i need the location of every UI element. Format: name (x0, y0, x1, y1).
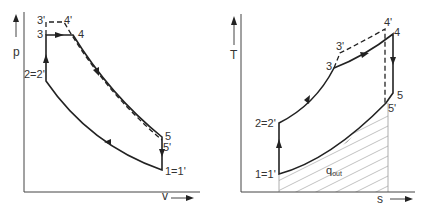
v-axis-arrow-icon (171, 195, 194, 201)
t-axis-arrow-icon (231, 16, 237, 45)
pv-label-3: 3 (37, 28, 43, 40)
ts-y-axis-label: T (230, 48, 238, 62)
heat-out-label: qout (326, 164, 342, 177)
arrow-4-5-ts-icon (390, 57, 396, 65)
pv-y-axis-label: p (13, 45, 20, 59)
pv-label-5prime: 5' (163, 141, 171, 153)
arrow-3-4-icon (55, 32, 64, 38)
arrow-1-2-ts-icon (276, 139, 282, 148)
ts-label-3prime: 3' (336, 40, 344, 52)
pv-x-axis-label: v (162, 189, 168, 203)
ts-label-4prime: 4' (384, 16, 392, 28)
heat-rejected-hatch (260, 100, 420, 210)
pv-diagram: p v 3' 4' 3 4 2=2' 5 5' 1=1' (13, 12, 200, 203)
ts-label-4: 4 (394, 26, 400, 38)
ts-label-5prime: 5' (388, 102, 396, 114)
arrow-2-3-icon (43, 54, 49, 63)
ts-label-3: 3 (326, 60, 332, 72)
ts-label-5: 5 (397, 89, 403, 101)
arrow-3-4-ts-icon (360, 52, 369, 58)
pv-label-2: 2=2' (24, 68, 45, 80)
ts-diagram: T s 2=2' 1=1' 3 3' 4' 4 5 5' qout (230, 14, 420, 210)
p-axis-arrow-icon (13, 14, 19, 37)
pv-label-3prime: 3' (37, 14, 45, 26)
diagram-canvas: p v 3' 4' 3 4 2=2' 5 5' 1=1' (0, 0, 429, 210)
ts-cycle-path (279, 34, 393, 174)
s-axis-arrow-icon (390, 196, 413, 202)
pv-cycle-path (46, 35, 162, 170)
ts-x-axis-label: s (377, 192, 383, 206)
heat-out-subscript: out (332, 170, 342, 177)
arrow-1-2-icon (104, 139, 111, 145)
ts-label-1: 1=1' (255, 168, 276, 180)
arrow-2-3-ts-icon (304, 95, 310, 104)
pv-label-4prime: 4' (64, 14, 72, 26)
pv-label-1: 1=1' (165, 165, 186, 177)
pv-label-4: 4 (78, 28, 84, 40)
ts-label-2: 2=2' (255, 117, 276, 129)
